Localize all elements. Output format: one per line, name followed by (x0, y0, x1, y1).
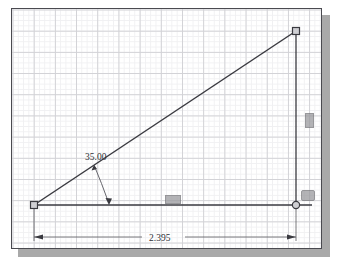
angle-dimension-arc[interactable] (94, 165, 108, 201)
horizontal-dimension-value[interactable]: 2.395 (149, 233, 171, 243)
horizontal-arrowhead-left (34, 235, 43, 240)
origin-point-marker[interactable] (31, 202, 38, 209)
coincident-constraint-glyph[interactable] (301, 190, 315, 201)
sketch-canvas[interactable]: 35.00 2.395 (11, 8, 322, 249)
vertical-constraint-glyph[interactable] (305, 113, 314, 128)
angle-dimension-value[interactable]: 35.00 (85, 152, 107, 162)
apex-point-marker[interactable] (293, 28, 300, 35)
horizontal-arrowhead-right (287, 235, 296, 240)
horizontal-constraint-glyph[interactable] (165, 195, 181, 204)
sketch-geometry-layer: 35.00 2.395 (12, 9, 321, 248)
hypotenuse[interactable] (34, 31, 296, 205)
angle-arrowhead-bottom (106, 198, 113, 205)
sketch-screenshot: 35.00 2.395 (0, 0, 339, 271)
base-end-point-marker[interactable] (292, 201, 299, 208)
